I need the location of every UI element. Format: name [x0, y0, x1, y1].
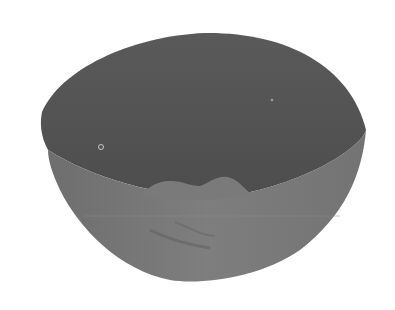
photo-stage [0, 0, 395, 310]
glare-speck [271, 99, 274, 102]
bowl-photo [0, 0, 395, 310]
